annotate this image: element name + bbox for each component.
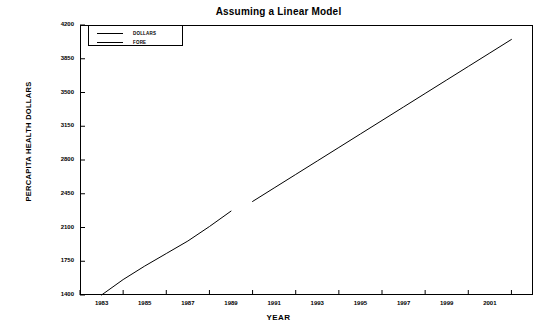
x-tick-label: 1991 bbox=[254, 300, 294, 306]
x-tick-label: 1987 bbox=[168, 300, 208, 306]
y-tick-label: 2450 bbox=[34, 190, 74, 196]
x-tick-label: 2001 bbox=[470, 300, 510, 306]
legend-item-dollars: DOLLARS bbox=[89, 29, 182, 37]
chart-legend: DOLLARS FORE bbox=[88, 25, 183, 46]
legend-label-fore: FORE bbox=[133, 40, 146, 45]
x-tick-label: 1983 bbox=[82, 300, 122, 306]
legend-line-swatch-dollars bbox=[97, 33, 123, 34]
x-tick-label: 1989 bbox=[211, 300, 251, 306]
x-tick-label: 1999 bbox=[427, 300, 467, 306]
y-tick-label: 2800 bbox=[34, 156, 74, 162]
y-tick-label: 1750 bbox=[34, 257, 74, 263]
y-tick-label: 4200 bbox=[34, 21, 74, 27]
y-axis-title: PERCAPITA HEALTH DOLLARS bbox=[24, 52, 33, 232]
y-tick-label: 1400 bbox=[34, 291, 74, 297]
data-series-lines bbox=[102, 39, 512, 295]
y-tick-label: 3150 bbox=[34, 122, 74, 128]
chart-canvas bbox=[0, 0, 557, 333]
legend-label-dollars: DOLLARS bbox=[133, 31, 156, 36]
y-tick-label: 2100 bbox=[34, 224, 74, 230]
x-axis-title: YEAR bbox=[0, 313, 557, 322]
x-tick-label: 1985 bbox=[125, 300, 165, 306]
legend-item-fore: FORE bbox=[89, 38, 182, 46]
x-tick-label: 1993 bbox=[297, 300, 337, 306]
chart-container: Assuming a Linear Model 1400175021002450… bbox=[0, 0, 557, 333]
y-tick-label: 3850 bbox=[34, 55, 74, 61]
x-tick-label: 1997 bbox=[384, 300, 424, 306]
legend-line-swatch-fore bbox=[97, 42, 123, 43]
x-axis-ticks bbox=[80, 290, 511, 295]
y-tick-label: 3500 bbox=[34, 89, 74, 95]
y-axis-ticks bbox=[80, 25, 85, 295]
x-tick-label: 1995 bbox=[340, 300, 380, 306]
